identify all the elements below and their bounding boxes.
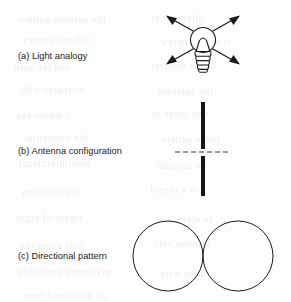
panel-label-c: (c) Directional pattern <box>18 251 107 261</box>
lightbulb-graphic <box>166 16 240 73</box>
antenna-figure: the antenna patterndirection ofradiated … <box>0 0 291 302</box>
panel-label-a: (a) Light analogy <box>18 51 87 61</box>
pattern-right-lobe <box>203 221 273 291</box>
arrow-down-right-icon <box>213 49 240 65</box>
pattern-left-lobe <box>133 221 203 291</box>
bulb-glass-icon <box>191 28 216 53</box>
panel-label-b: (b) Antenna configuration <box>18 146 122 156</box>
arrow-up-right-icon <box>213 16 240 32</box>
arrow-up-left-icon <box>166 16 193 32</box>
bulb-screw-base-icon <box>195 52 211 73</box>
dipole-graphic <box>175 102 231 196</box>
arrow-down-left-icon <box>166 49 193 65</box>
directional-pattern-graphic <box>133 221 273 291</box>
